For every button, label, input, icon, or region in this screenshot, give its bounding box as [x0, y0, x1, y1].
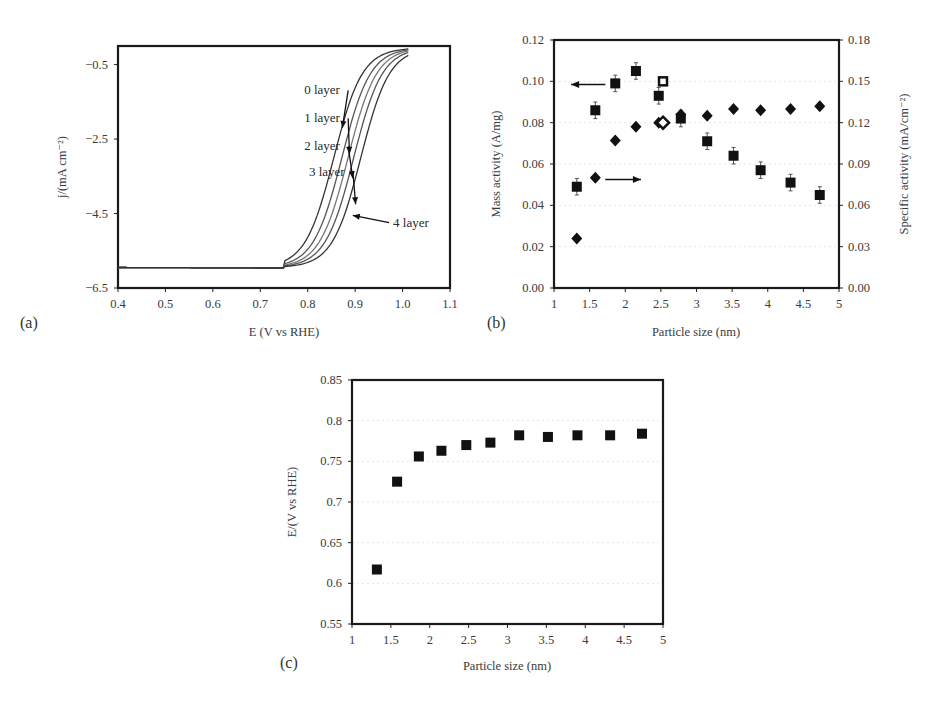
- panel-label: (c): [280, 654, 298, 672]
- y-tick-label: 0.08: [522, 116, 544, 130]
- y-axis-label: j/(mA cm⁻²): [55, 136, 69, 199]
- curve-label: 3 layer: [309, 164, 345, 179]
- x-tick-label: 2.5: [461, 633, 477, 647]
- y-right-tick-label: 0.06: [848, 198, 870, 212]
- square-marker: [610, 78, 620, 88]
- curve-label: 0 layer: [304, 82, 340, 97]
- panel-label: (b): [487, 314, 506, 332]
- y-tick-label: −2.5: [85, 132, 108, 146]
- x-tick-label: 4: [765, 297, 772, 311]
- x-axis-ticks: 11.522.533.544.55: [349, 624, 666, 647]
- diamond-marker: [590, 172, 601, 184]
- diamond-marker: [728, 103, 739, 115]
- x-axis-label: Particle size (nm): [463, 659, 551, 673]
- y-right-tick-label: 0.15: [848, 74, 870, 88]
- square-marker: [485, 438, 495, 448]
- x-axis-ticks: 0.40.50.60.70.80.91.01.1: [110, 288, 458, 311]
- x-tick-label: 0.8: [300, 297, 316, 311]
- y-tick-label: 0.6: [326, 576, 342, 590]
- curve-label: 1 layer: [304, 110, 340, 125]
- y-right-axis-label: Specific activity (mA/cm⁻²): [897, 94, 911, 235]
- x-tick-label: 4.5: [616, 633, 632, 647]
- square-marker: [572, 430, 582, 440]
- y-tick-label: 0.04: [522, 198, 545, 212]
- data-points: [571, 63, 825, 245]
- y-axis-label: E/(V vs RHE): [285, 467, 299, 538]
- y-tick-label: 0.65: [320, 536, 342, 550]
- square-marker: [756, 165, 766, 175]
- y-axis-label: Mass activity (A/mg): [489, 111, 503, 218]
- y-right-tick-label: 0.12: [848, 116, 870, 130]
- square-marker: [590, 105, 600, 115]
- x-tick-label: 4.5: [796, 297, 812, 311]
- square-marker: [702, 136, 712, 146]
- x-tick-label: 3.5: [724, 297, 740, 311]
- y-tick-label: −6.5: [85, 281, 108, 295]
- y-tick-label: 0.85: [320, 373, 342, 387]
- x-tick-label: 2.5: [653, 297, 669, 311]
- x-tick-label: 1.1: [442, 297, 458, 311]
- y-axis-ticks: 0.000.020.040.060.080.100.12: [522, 33, 554, 295]
- diamond-marker: [571, 232, 582, 244]
- arrow-head-icon: [353, 214, 360, 220]
- x-tick-label: 0.6: [205, 297, 221, 311]
- y-right-tick-label: 0.09: [848, 157, 870, 171]
- square-marker: [572, 182, 582, 192]
- x-tick-label: 1: [349, 633, 355, 647]
- panel-label: (a): [20, 314, 38, 332]
- arrow-head-icon: [571, 81, 579, 88]
- chart-b: 11.522.533.544.550.000.020.040.060.080.1…: [487, 33, 911, 339]
- square-marker: [436, 446, 446, 456]
- x-tick-label: 0.9: [347, 297, 363, 311]
- x-axis-label: Particle size (nm): [652, 325, 740, 339]
- x-tick-label: 0.5: [158, 297, 174, 311]
- square-marker: [637, 429, 647, 439]
- y-tick-label: −0.5: [85, 58, 108, 72]
- diamond-marker: [755, 104, 766, 116]
- chart-c: 11.522.533.544.550.550.60.650.70.750.80.…: [280, 373, 666, 673]
- curve-annotations: 0 layer1 layer2 layer3 layer4 layer: [304, 82, 429, 229]
- y-axis-ticks: 0.550.60.650.70.750.80.85: [320, 373, 352, 631]
- arrow-head-icon: [340, 121, 346, 128]
- chart-a: 0.40.50.60.70.80.91.01.1−0.5−2.5−4.5−6.5…: [20, 46, 458, 339]
- diamond-marker: [785, 103, 796, 115]
- y-tick-label: 0.06: [522, 157, 544, 171]
- plot-frame: [118, 46, 450, 288]
- diamond-marker: [610, 135, 621, 147]
- x-tick-label: 5: [660, 633, 666, 647]
- gridlines: [352, 421, 663, 584]
- diamond-marker: [702, 110, 713, 122]
- square-marker: [514, 430, 524, 440]
- curve-label: 4 layer: [393, 215, 429, 230]
- figure-canvas: 0.40.50.60.70.80.91.01.1−0.5−2.5−4.5−6.5…: [0, 0, 947, 706]
- square-marker: [654, 91, 664, 101]
- y-tick-label: 0.7: [326, 495, 342, 509]
- square-marker: [461, 440, 471, 450]
- x-tick-label: 3: [693, 297, 699, 311]
- y-right-tick-label: 0.18: [848, 33, 870, 47]
- y-right-tick-label: 0.03: [848, 240, 870, 254]
- x-tick-label: 2: [622, 297, 628, 311]
- curve-label: 2 layer: [304, 138, 340, 153]
- square-marker: [786, 178, 796, 188]
- x-axis-label: E (V vs RHE): [249, 325, 319, 339]
- square-marker: [605, 430, 615, 440]
- x-tick-label: 2: [427, 633, 433, 647]
- square-marker: [543, 432, 553, 442]
- y-tick-label: −4.5: [85, 207, 108, 221]
- y-tick-label: 0.02: [522, 240, 544, 254]
- y-tick-label: 0.10: [522, 74, 544, 88]
- x-axis-ticks: 11.522.533.544.55: [551, 288, 842, 311]
- arrow-head-icon: [633, 176, 641, 183]
- square-marker: [414, 451, 424, 461]
- y-tick-label: 0.8: [326, 414, 342, 428]
- y-axis-ticks: −0.5−2.5−4.5−6.5: [85, 58, 118, 295]
- square-marker: [631, 66, 641, 76]
- open-square-marker: [659, 77, 667, 85]
- curve-0-layer: [118, 49, 408, 268]
- x-tick-label: 1.0: [395, 297, 411, 311]
- y-tick-label: 0.00: [522, 281, 544, 295]
- y-tick-label: 0.12: [522, 33, 544, 47]
- x-tick-label: 3.5: [539, 633, 555, 647]
- x-tick-label: 5: [836, 297, 842, 311]
